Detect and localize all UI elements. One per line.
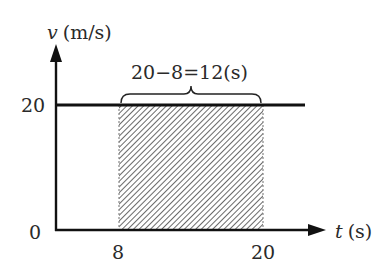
x-axis-arrow-icon [308,224,326,236]
x-axis-label: t(s) [335,220,372,242]
brace [121,86,261,103]
brace-annotation: 20−8=12(s) [131,61,248,83]
shaded-area [119,105,263,230]
x-tick-label-8: 8 [112,241,124,263]
y-axis [50,44,62,231]
y-axis-arrow-icon [50,44,62,62]
y-tick-label-20: 20 [21,94,45,116]
velocity-time-diagram: v(m/s) t(s) 20 0 8 20 20−8=12(s) [0,0,386,277]
x-tick-label-20: 20 [251,241,275,263]
origin-label: 0 [29,221,41,243]
y-axis-label: v(m/s) [47,21,112,43]
